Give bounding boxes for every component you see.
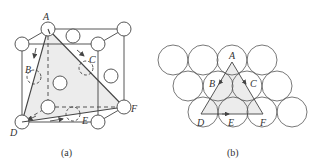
caption-a: (a) bbox=[61, 147, 72, 159]
label-a-C: C bbox=[89, 54, 96, 65]
label-b-B: B bbox=[209, 78, 215, 89]
figure-canvas: A B C D E F (a) A B C D E F bbox=[0, 0, 323, 164]
fcc-cube-diagram bbox=[15, 22, 131, 129]
arrow-AC bbox=[77, 50, 84, 56]
label-a-E: E bbox=[81, 115, 88, 126]
arrow-AB bbox=[34, 48, 36, 58]
arrow-DE bbox=[50, 119, 63, 121]
caption-b: (b) bbox=[227, 147, 239, 159]
label-a-A: A bbox=[42, 11, 50, 22]
label-b-A: A bbox=[228, 50, 236, 61]
label-b-E: E bbox=[227, 117, 234, 128]
label-a-D: D bbox=[9, 127, 18, 138]
label-b-F: F bbox=[259, 117, 267, 128]
label-a-B: B bbox=[25, 64, 31, 75]
label-b-D: D bbox=[196, 117, 205, 128]
label-a-F: F bbox=[130, 103, 138, 114]
atom-F bbox=[117, 100, 131, 114]
label-b-C: C bbox=[250, 78, 257, 89]
